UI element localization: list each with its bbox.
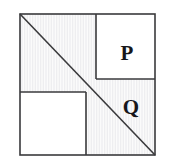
geometry-diagram-svg: P Q bbox=[0, 0, 170, 168]
region-lower-left-plain bbox=[20, 92, 86, 155]
region-upper-left-extension-shaded bbox=[20, 14, 86, 92]
geometry-figure: P Q bbox=[0, 0, 170, 168]
region-p-label: P bbox=[121, 41, 134, 65]
region-q-label: Q bbox=[123, 95, 139, 119]
